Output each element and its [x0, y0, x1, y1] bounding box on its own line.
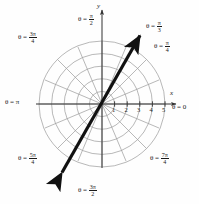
- fraction-3pi-over-4: 3π 4: [29, 31, 37, 44]
- theta-zero-label: θ = 0: [172, 104, 186, 111]
- fraction-numerator: 5π: [29, 152, 37, 159]
- theta-7pi-4-label: θ = 7π 4: [150, 152, 169, 165]
- theta-5pi-4-label: θ = 5π 4: [18, 152, 37, 165]
- theta-symbol: θ: [78, 15, 81, 23]
- fraction-numerator: π: [157, 20, 162, 27]
- fraction-denominator: 2: [89, 191, 97, 197]
- theta-symbol: θ: [18, 33, 21, 41]
- equals-sign: =: [155, 154, 159, 162]
- equals-sign: =: [83, 186, 87, 194]
- fraction-numerator: π: [165, 40, 170, 47]
- equals-sign: =: [177, 103, 181, 111]
- theta-pi-4-label: θ = π 4: [154, 40, 170, 53]
- theta-symbol: θ: [146, 22, 149, 30]
- x-tick-label-2: 2: [125, 106, 128, 113]
- zero-value: 0: [183, 103, 187, 111]
- fraction-pi-over-4: π 4: [165, 40, 170, 53]
- fraction-denominator: 4: [29, 38, 37, 44]
- fraction-pi-over-2: π 2: [89, 13, 94, 26]
- fraction-numerator: 3π: [89, 184, 97, 191]
- fraction-denominator: 4: [165, 47, 170, 53]
- pi-symbol: π: [16, 98, 20, 106]
- theta-symbol: θ: [5, 98, 8, 106]
- x-axis-label: x: [170, 89, 173, 97]
- equals-sign: =: [159, 42, 163, 50]
- equals-sign: =: [23, 154, 27, 162]
- theta-symbol: θ: [78, 186, 81, 194]
- theta-symbol: θ: [172, 103, 175, 111]
- fraction-denominator: 2: [89, 20, 94, 26]
- theta-3pi-2-label: θ = 3π 2: [78, 184, 97, 197]
- fraction-3pi-over-2: 3π 2: [89, 184, 97, 197]
- x-tick-label-1: 1: [112, 106, 115, 113]
- fraction-numerator: π: [89, 13, 94, 20]
- fraction-denominator: 4: [29, 159, 37, 165]
- theta-symbol: θ: [18, 154, 21, 162]
- theta-pi-label: θ = π: [5, 99, 19, 106]
- y-axis-label: y: [97, 2, 100, 10]
- equals-sign: =: [83, 15, 87, 23]
- x-tick-label-4: 4: [150, 106, 153, 113]
- fraction-denominator: 3: [157, 27, 162, 33]
- theta-3pi-4-label: θ = 3π 4: [18, 31, 37, 44]
- equals-sign: =: [151, 22, 155, 30]
- theta-pi-3-label: θ = π 3: [146, 20, 162, 33]
- equals-sign: =: [23, 33, 27, 41]
- theta-pi-2-label: θ = π 2: [78, 13, 94, 26]
- fraction-pi-over-3: π 3: [157, 20, 162, 33]
- equals-sign: =: [10, 98, 14, 106]
- fraction-denominator: 4: [161, 159, 169, 165]
- fraction-5pi-over-4: 5π 4: [29, 152, 37, 165]
- x-tick-label-5: 5: [162, 106, 165, 113]
- fraction-7pi-over-4: 7π 4: [161, 152, 169, 165]
- theta-symbol: θ: [150, 154, 153, 162]
- x-tick-label-3: 3: [137, 106, 140, 113]
- fraction-numerator: 3π: [29, 31, 37, 38]
- fraction-numerator: 7π: [161, 152, 169, 159]
- theta-symbol: θ: [154, 42, 157, 50]
- polar-diagram-figure: y x 1 2 3 4 5 θ = π 2 θ = π 3 θ = π 4 θ …: [0, 0, 199, 204]
